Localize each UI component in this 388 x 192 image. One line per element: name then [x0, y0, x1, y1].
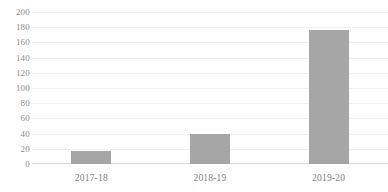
x-axis-tick-label-0: 2017-18: [75, 173, 108, 184]
y-axis-tick-label: 120: [2, 69, 30, 78]
x-axis: 2017-18 2018-19 2019-20: [32, 166, 388, 192]
bar-slot-2: [269, 12, 388, 164]
y-axis-tick-label: 80: [2, 99, 30, 108]
bar-slot-1: [151, 12, 270, 164]
bar-chart: 200 180 160 140 120 100 80 60 40 20 0: [0, 0, 388, 192]
y-axis-tick-label: 200: [2, 8, 30, 17]
y-axis-tick-label: 180: [2, 23, 30, 32]
bar-slot-0: [32, 12, 151, 164]
y-axis-tick-label: 0: [2, 160, 30, 169]
y-axis-tick-label: 160: [2, 38, 30, 47]
bar-2017-18[interactable]: [71, 151, 111, 164]
bars-layer: [32, 12, 388, 164]
y-axis-tick-label: 20: [2, 145, 30, 154]
y-axis-tick-label: 60: [2, 114, 30, 123]
x-axis-tick-label-2: 2019-20: [312, 173, 345, 184]
y-axis-tick-label: 40: [2, 130, 30, 139]
bar-2018-19[interactable]: [190, 134, 230, 164]
y-axis-tick-label: 100: [2, 84, 30, 93]
y-axis: 200 180 160 140 120 100 80 60 40 20 0: [0, 12, 30, 164]
x-axis-tick-label-1: 2018-19: [193, 173, 226, 184]
bar-2019-20[interactable]: [309, 30, 349, 164]
y-axis-tick-label: 140: [2, 54, 30, 63]
